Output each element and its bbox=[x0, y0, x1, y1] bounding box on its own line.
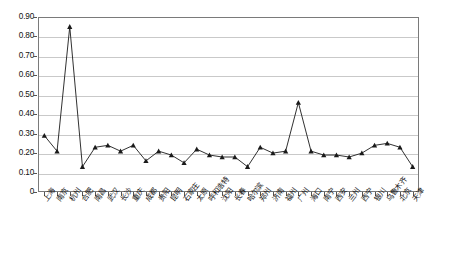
y-tick-mark bbox=[33, 192, 37, 193]
series-line bbox=[44, 27, 412, 167]
y-tick-label: 0.80 bbox=[0, 32, 34, 40]
y-tick-mark bbox=[33, 134, 37, 135]
data-point-marker bbox=[385, 141, 390, 146]
data-point-marker bbox=[131, 143, 136, 148]
data-point-marker bbox=[258, 145, 263, 150]
data-point-marker bbox=[410, 164, 415, 169]
data-point-marker bbox=[42, 133, 47, 138]
data-point-marker bbox=[296, 100, 301, 105]
y-tick-label: 0.60 bbox=[0, 71, 34, 79]
y-tick-label: 0.10 bbox=[0, 169, 34, 177]
data-series bbox=[38, 17, 419, 192]
y-tick-label: 0.50 bbox=[0, 91, 34, 99]
data-point-marker bbox=[283, 149, 288, 154]
data-point-marker bbox=[105, 143, 110, 148]
y-tick-mark bbox=[33, 36, 37, 37]
data-point-marker bbox=[359, 151, 364, 156]
y-tick-mark bbox=[33, 173, 37, 174]
y-tick-label: 0.20 bbox=[0, 149, 34, 157]
y-tick-mark bbox=[33, 114, 37, 115]
y-tick-label: 0.30 bbox=[0, 130, 34, 138]
line-chart: 0.900.800.700.600.500.400.300.200.100 上海… bbox=[0, 0, 450, 259]
y-tick-mark bbox=[33, 17, 37, 18]
y-tick-label: 0 bbox=[0, 188, 34, 196]
data-point-marker bbox=[194, 147, 199, 152]
y-tick-label: 0.70 bbox=[0, 52, 34, 60]
y-tick-label: 0.40 bbox=[0, 110, 34, 118]
y-tick-mark bbox=[33, 95, 37, 96]
data-point-marker bbox=[80, 164, 85, 169]
data-point-marker bbox=[308, 149, 313, 154]
data-point-marker bbox=[207, 152, 212, 157]
data-point-marker bbox=[67, 24, 72, 29]
y-tick-mark bbox=[33, 75, 37, 76]
y-tick-mark bbox=[33, 56, 37, 57]
y-tick-label: 0.90 bbox=[0, 13, 34, 21]
y-tick-mark bbox=[33, 153, 37, 154]
data-point-marker bbox=[156, 149, 161, 154]
data-point-marker bbox=[118, 149, 123, 154]
